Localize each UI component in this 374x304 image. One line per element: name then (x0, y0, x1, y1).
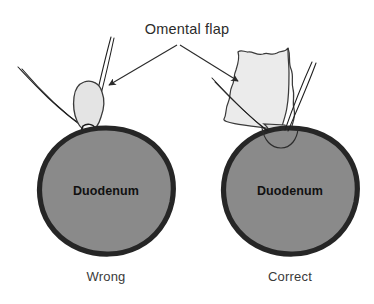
omental-flap-diagram: Duodenum Wrong Duodenum Corre (0, 0, 374, 304)
diagram-canvas: Duodenum Wrong Duodenum Corre (0, 0, 374, 304)
page-title: Omental flap (145, 21, 230, 37)
caption-correct: Correct (268, 269, 312, 284)
caption-wrong: Wrong (86, 269, 125, 284)
duodenum-label-correct: Duodenum (257, 184, 323, 198)
duodenum-label-wrong: Duodenum (73, 184, 139, 198)
